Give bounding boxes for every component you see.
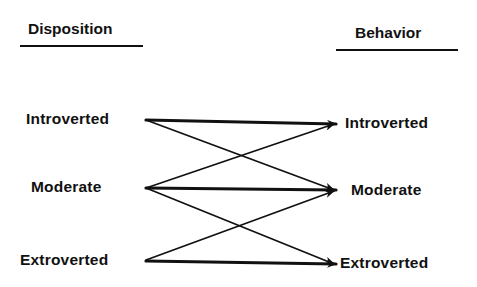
edge-introverted-to-introverted [146,120,336,124]
arrow-diagram [0,0,477,287]
edge-introverted-to-moderate [146,120,334,190]
edge-moderate-to-introverted [146,124,334,188]
edge-extroverted-to-extroverted [146,261,336,264]
edge-moderate-to-moderate [146,188,336,190]
edge-extroverted-to-moderate [146,191,334,260]
